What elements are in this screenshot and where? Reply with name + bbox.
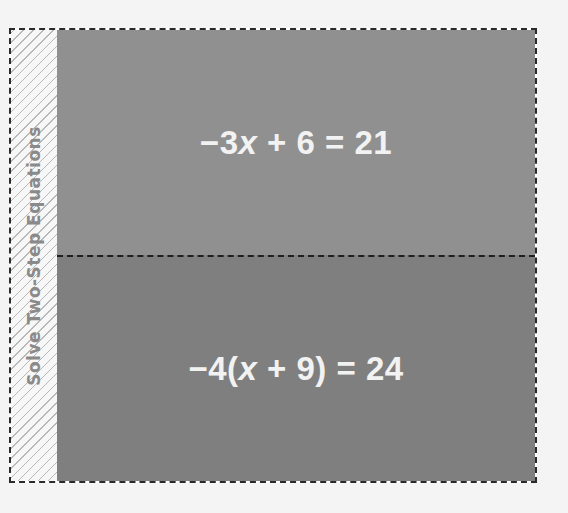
flap-bottom[interactable]: −4(x + 9) = 24 — [57, 255, 535, 481]
equation-1-variable: x — [238, 124, 257, 161]
equation-2-pre: −4( — [188, 350, 238, 387]
equation-2-post: + 9) = 24 — [257, 350, 403, 387]
equation-1-post: + 6 = 21 — [257, 124, 392, 161]
equation-1-pre: −3 — [200, 124, 239, 161]
hatched-tab-strip: Solve Two-Step Equations — [11, 30, 57, 481]
tab-title: Solve Two-Step Equations — [24, 126, 44, 386]
equation-2-variable: x — [239, 350, 258, 387]
equation-1: −3x + 6 = 21 — [200, 124, 392, 162]
foldable-card: Solve Two-Step Equations −3x + 6 = 21 −4… — [9, 28, 537, 483]
flap-top[interactable]: −3x + 6 = 21 — [57, 30, 535, 255]
equation-2: −4(x + 9) = 24 — [188, 350, 403, 388]
